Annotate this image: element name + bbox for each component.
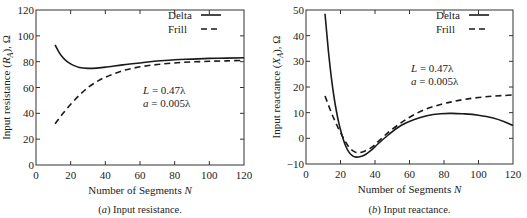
y-axis-label: Input resistance (RA), Ω: [0, 35, 15, 140]
x-tick-label: 100: [470, 168, 487, 180]
x-tick-label: 80: [439, 168, 451, 180]
x-tick-label: 120: [505, 168, 522, 180]
y-tick-label: 80: [23, 56, 35, 68]
x-tick-label: 0: [33, 169, 39, 181]
y-tick-label: 20: [23, 133, 35, 145]
plot-frame: [306, 10, 513, 164]
figure-caption: (b) Input reactance.: [369, 204, 451, 216]
x-tick-label: 80: [169, 169, 181, 181]
legend: DeltaFrill: [168, 9, 221, 35]
x-tick-label: 100: [201, 169, 218, 181]
y-tick-label: 60: [23, 82, 35, 94]
x-tick-label: 20: [65, 169, 77, 181]
y-tick-label: 30: [293, 55, 305, 67]
x-tick-label: 20: [335, 168, 347, 180]
legend: DeltaFrill: [436, 9, 489, 35]
y-tick-label: 10: [293, 107, 305, 119]
annotation: a = 0.005λ: [411, 75, 459, 87]
x-tick-label: 40: [100, 169, 112, 181]
legend-label-frill: Frill: [168, 23, 187, 35]
annotation: a = 0.005λ: [143, 97, 191, 109]
annotation: L = 0.47λ: [410, 62, 454, 74]
legend-label-delta: Delta: [168, 9, 192, 21]
x-tick-label: 120: [236, 169, 253, 181]
y-tick-label: 100: [18, 30, 35, 42]
y-tick-label: 120: [18, 4, 35, 16]
figure-caption: (a) Input resistance.: [98, 204, 182, 216]
legend-label-delta: Delta: [436, 9, 460, 21]
y-tick-label: 40: [293, 30, 305, 42]
annotation: L = 0.47λ: [142, 84, 186, 96]
x-tick-label: 60: [135, 169, 147, 181]
x-axis-label: Number of Segments N: [358, 183, 462, 195]
plot-frame: [36, 10, 244, 165]
chart-input-reactance: 020406080100120−1001020304050Number of S…: [270, 4, 522, 216]
y-tick-label: 20: [293, 81, 305, 93]
y-tick-label: 0: [299, 132, 305, 144]
y-tick-label: −10: [287, 158, 305, 170]
figure: 020406080100120020406080100120Number of …: [0, 0, 527, 218]
x-axis-label: Number of Segments N: [88, 184, 192, 196]
series-line-frill: [325, 95, 513, 153]
y-axis-label: Input reactance (XA), Ω: [270, 36, 285, 139]
y-tick-label: 0: [29, 159, 35, 171]
y-tick-label: 50: [293, 4, 305, 16]
x-tick-label: 40: [370, 168, 382, 180]
legend-label-frill: Frill: [436, 23, 455, 35]
chart-input-resistance: 020406080100120020406080100120Number of …: [0, 4, 253, 216]
x-tick-label: 60: [404, 168, 416, 180]
x-tick-label: 0: [303, 168, 309, 180]
y-tick-label: 40: [23, 107, 35, 119]
